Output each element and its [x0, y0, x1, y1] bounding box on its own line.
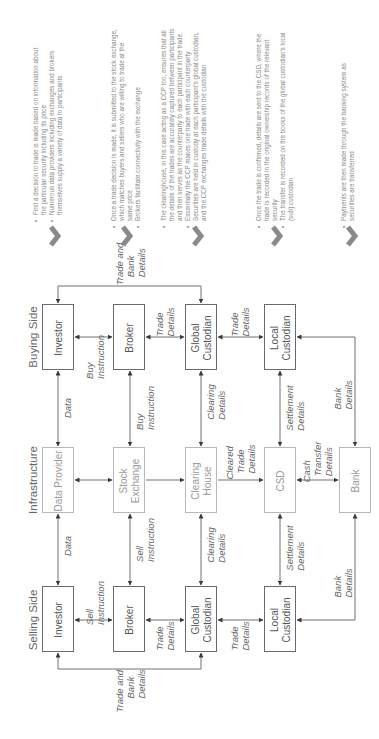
- step-description-4: Once the trade is confirmed, details are…: [255, 28, 295, 228]
- edge-label-sell-instruction-exchange: SellInstruction: [134, 518, 156, 562]
- selling-side-title: Selling Side: [27, 590, 39, 651]
- box-label: Data Provider: [53, 450, 65, 511]
- edge-label-sell-gc-lc-trade: TradeDetails: [229, 621, 251, 650]
- buying-global-custodian-box: GlobalCustodian: [185, 304, 217, 370]
- chevron-down-icon: [51, 227, 58, 245]
- buying-investor-box: Investor: [42, 304, 74, 370]
- box-label: Broker: [124, 323, 136, 352]
- box-label: LocalCustodian: [269, 315, 293, 360]
- edge-label-buy-data: Data: [62, 398, 73, 418]
- step-description-2: Once a trade decision is made, it is sub…: [110, 28, 142, 228]
- box-label: ClearingHouse: [190, 462, 214, 499]
- stock-exchange-box: StockExchange: [113, 447, 145, 513]
- box-label: GlobalCustodian: [190, 597, 214, 642]
- edge-label-sell-broker-gc-trade: TradeDetails: [154, 621, 176, 650]
- edge-label-sell-settlement: SettlementDetails: [284, 525, 306, 570]
- csd-box: CSD: [264, 447, 296, 513]
- edge-label-buy-bank: BankDetails: [332, 380, 354, 409]
- chevron-down-icon: [273, 227, 280, 245]
- box-label: GlobalCustodian: [190, 315, 214, 360]
- box-label: Bank: [350, 470, 362, 493]
- box-label: Investor: [53, 602, 65, 638]
- description-bullet: Essentially the CCP makes one trade with…: [184, 28, 192, 228]
- buying-side-title: Buying Side: [27, 306, 39, 367]
- chevron-down-icon: [194, 227, 201, 245]
- description-bullet: Payments are then made through the banki…: [340, 50, 356, 228]
- box-label: Investor: [53, 320, 65, 356]
- step-description-5: Payments are then made through the banki…: [340, 50, 356, 228]
- step-description-1: First a decision to trade is made based …: [32, 44, 64, 222]
- edge-label-buy-broker-gc-trade: TradeDetails: [154, 307, 176, 336]
- edge-label-sell-clearing: ClearingDetails: [205, 527, 227, 562]
- bank-box: Bank: [339, 447, 371, 513]
- edge-label-buy-instruction: BuyInstruction: [84, 335, 106, 379]
- description-bullet: First a decision to trade is made based …: [32, 44, 48, 222]
- selling-local-custodian-box: LocalCustodian: [264, 586, 296, 652]
- buying-broker-box: Broker: [113, 304, 145, 370]
- selling-investor-box: Investor: [42, 586, 74, 652]
- edge-label-sell-instruction: SellInstruction: [84, 581, 106, 625]
- infrastructure-title: Infrastructure: [27, 446, 39, 514]
- box-label: Broker: [124, 605, 136, 634]
- edge-label-buy-trade-and-bank: Trade andBankDetails: [114, 243, 147, 286]
- chevron-down-icon: [348, 227, 355, 245]
- buying-local-custodian-box: LocalCustodian: [264, 304, 296, 370]
- selling-broker-box: Broker: [113, 586, 145, 652]
- box-label: CSD: [275, 470, 287, 491]
- description-bullet: Once the trade is confirmed, details are…: [255, 28, 279, 228]
- description-bullet: The transfer is recorded on the books of…: [279, 28, 295, 228]
- description-bullet: The clearinghouse, in this case acting a…: [160, 28, 184, 228]
- edge-label-buy-settlement: SettlementDetails: [284, 385, 306, 430]
- edge-label-sell-data: Data: [62, 536, 73, 556]
- description-bullet: Brokers facilitate connectivity with the…: [134, 28, 142, 228]
- description-bullet: Securities are held in custody at each p…: [192, 28, 208, 228]
- description-bullet: Once a trade decision is made, it is sub…: [110, 28, 134, 228]
- step-description-3: The clearinghouse, in this case acting a…: [160, 28, 208, 228]
- edge-label-cash-transfer: CashTransferDetails: [301, 442, 334, 483]
- description-bullet: Numerous data providers including exchan…: [48, 44, 64, 222]
- edge-label-buy-instruction-exchange: BuyInstruction: [134, 386, 156, 430]
- data-provider-box: Data Provider: [42, 447, 74, 513]
- selling-global-custodian-box: GlobalCustodian: [185, 586, 217, 652]
- box-label: StockExchange: [118, 459, 142, 503]
- edge-label-sell-trade-and-bank: Trade andBankDetails: [114, 669, 147, 712]
- edge-label-buy-clearing: ClearingDetails: [205, 384, 227, 419]
- box-label: LocalCustodian: [269, 597, 293, 642]
- clearing-house-box: ClearingHouse: [185, 447, 217, 513]
- edge-label-sell-bank: BankDetails: [332, 568, 354, 597]
- edge-label-cleared-trade: ClearedTradeDetails: [224, 444, 257, 479]
- edge-label-buy-gc-lc-trade: TradeDetails: [229, 307, 251, 336]
